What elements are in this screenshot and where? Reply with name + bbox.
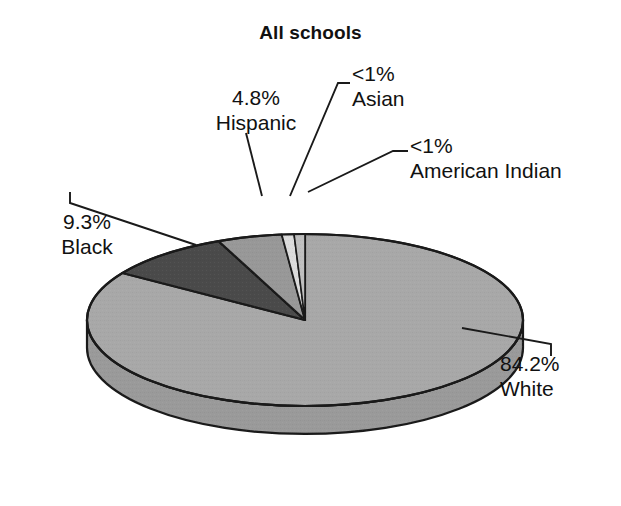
- callout-american-indian-percent: <1%: [410, 134, 620, 159]
- callout-asian-group: Asian: [352, 87, 472, 112]
- callout-black: 9.3% Black: [22, 210, 152, 259]
- leader-line-american-indian: [308, 151, 408, 192]
- callout-white: 84.2% White: [500, 352, 618, 401]
- callout-hispanic: 4.8% Hispanic: [196, 86, 316, 135]
- callout-asian-percent: <1%: [352, 62, 472, 87]
- callout-american-indian: <1% American Indian: [410, 134, 620, 183]
- pie-chart-figure: All schools: [0, 0, 621, 506]
- pie-top-face-texture: [87, 234, 523, 406]
- callout-hispanic-group: Hispanic: [196, 111, 316, 136]
- callout-white-group: White: [500, 377, 618, 402]
- callout-hispanic-percent: 4.8%: [196, 86, 316, 111]
- callout-black-group: Black: [22, 235, 152, 260]
- callout-black-percent: 9.3%: [22, 210, 152, 235]
- pie-top-face: [0, 0, 523, 406]
- callout-asian: <1% Asian: [352, 62, 472, 111]
- callout-white-percent: 84.2%: [500, 352, 618, 377]
- callout-american-indian-group: American Indian: [410, 159, 620, 184]
- leader-line-hispanic: [246, 133, 262, 196]
